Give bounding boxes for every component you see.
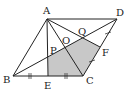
label-q: Q [78, 26, 86, 37]
label-p: P [50, 45, 57, 56]
segment-ae [47, 19, 48, 76]
label-f: F [102, 47, 109, 58]
geometry-diagram: A D B C E F O P Q [0, 0, 133, 95]
label-c: C [86, 75, 94, 86]
label-o: O [62, 35, 70, 46]
shaded-region [48, 38, 100, 76]
label-b: B [3, 74, 10, 85]
label-a: A [42, 5, 51, 16]
label-d: D [116, 7, 124, 18]
label-e: E [44, 80, 51, 91]
